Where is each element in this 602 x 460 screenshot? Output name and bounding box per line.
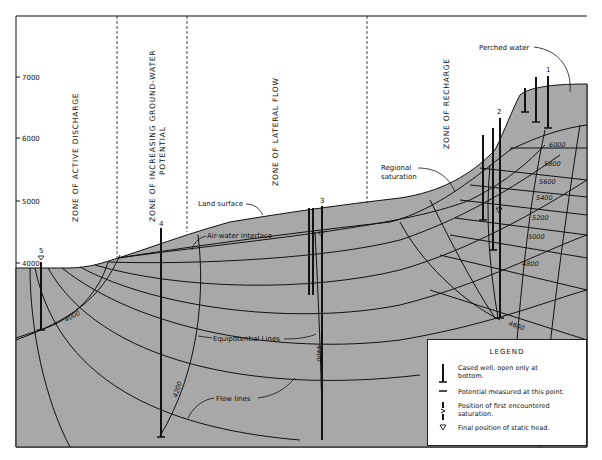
callout-equipotential-lines: Equipotential Lines	[213, 335, 280, 343]
legend-item-potential-measured: Potential measured at this point.	[436, 388, 582, 396]
legend-item-cased-well: Cased well, open only atbottom.	[436, 364, 582, 384]
callout-regional-saturation-1: Regional	[381, 164, 411, 172]
zone-label-lateral-flow: ZONE OF LATERAL FLOW	[271, 77, 280, 186]
y-tick-5000: 5000	[22, 198, 40, 206]
legend-text-potential-measured: Potential measured at this point.	[458, 388, 564, 396]
y-axis-ticks	[16, 77, 20, 263]
zone-label-recharge: ZONE OF RECHARGE	[442, 58, 451, 149]
legend-text-static-head: Final position of static head.	[458, 424, 549, 432]
legend-item-first-saturation: Position of first encounteredsaturation.	[436, 402, 582, 420]
contour-label-5800: 5800	[544, 160, 561, 168]
potential-measured-icon	[436, 388, 450, 394]
contour-label-4400: 4400	[315, 345, 323, 362]
callout-regional-saturation-2: saturation	[381, 173, 417, 181]
callout-perched-water: Perched water	[479, 44, 529, 52]
contour-label-5000: 5000	[528, 233, 545, 241]
well-label-5: 5	[39, 247, 43, 255]
contour-label-6000: 6000	[549, 141, 566, 149]
legend-text-cased-well-2: bottom.	[458, 372, 484, 380]
contour-label-5400: 5400	[536, 194, 553, 202]
callout-flow-lines: Flow lines	[216, 395, 251, 403]
legend-item-static-head: Final position of static head.	[436, 424, 582, 432]
zone-label-active-discharge: ZONE OF ACTIVE DISCHARGE	[71, 93, 80, 222]
first-saturation-icon	[436, 402, 450, 420]
well-label-2: 2	[497, 108, 501, 116]
well-label-3: 3	[320, 197, 324, 205]
static-head-icon	[436, 424, 450, 432]
y-tick-6000: 6000	[22, 135, 40, 143]
legend-text-first-saturation-1: Position of first encountered	[458, 402, 550, 410]
legend-text-cased-well-1: Cased well, open only at	[458, 364, 538, 372]
legend-title: LEGEND	[428, 348, 586, 356]
legend-text-first-saturation-2: saturation.	[458, 410, 493, 418]
callout-land-surface-arrow	[246, 204, 263, 215]
callout-air-water-interface: Air-water interface	[207, 232, 272, 240]
legend: LEGEND Cased well, open only atbottom. P…	[427, 339, 587, 446]
contour-label-5200: 5200	[532, 214, 549, 222]
y-tick-7000: 7000	[22, 74, 40, 82]
zone-label-increasing-potential-2: POTENTIAL	[158, 126, 167, 175]
zone-label-increasing-potential-1: ZONE OF INCREASING GROUND-WATER	[148, 50, 157, 222]
y-tick-4000: 4000	[22, 260, 40, 268]
contour-label-4800: 4800	[522, 260, 539, 268]
well-label-1: 1	[546, 66, 550, 74]
callout-land-surface: Land surface	[198, 200, 243, 208]
well-label-4: 4	[159, 220, 164, 228]
contour-label-5600: 5600	[539, 178, 556, 186]
cased-well-icon	[436, 364, 450, 384]
